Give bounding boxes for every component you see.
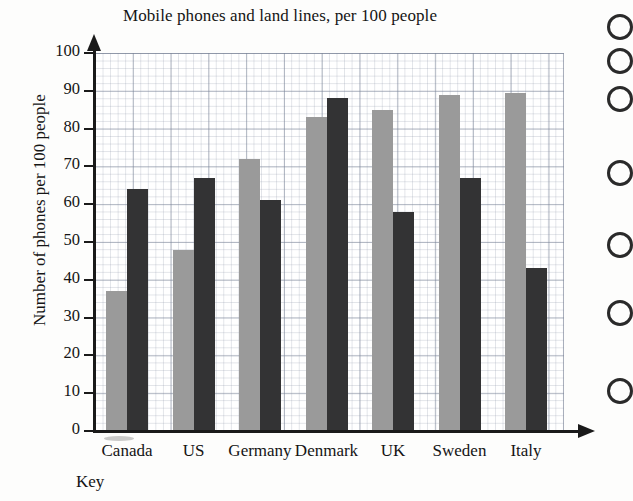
bar-denmark-mobile [306,117,327,431]
bar-italy-mobile [505,93,526,431]
y-tick [84,90,94,92]
bar-sweden-landline [460,178,481,431]
y-tick [84,165,94,167]
hole-punch-mark [607,300,633,326]
y-tick-label: 10 [28,381,80,401]
y-tick [84,52,94,54]
x-label-italy: Italy [486,441,566,461]
chart-title: Mobile phones and land lines, per 100 pe… [0,6,560,26]
bar-uk-landline [393,212,414,431]
y-tick [84,392,94,394]
y-tick [84,317,94,319]
y-tick-label: 30 [28,306,80,326]
y-tick [84,241,94,243]
hole-punch-mark [607,14,633,40]
bar-italy-landline [526,268,547,431]
bar-us-landline [194,178,215,431]
y-tick-label: 20 [28,343,80,363]
y-tick [84,203,94,205]
bar-canada-mobile [106,291,127,431]
y-tick-label: 40 [28,268,80,288]
y-tick-label: 90 [28,79,80,99]
hole-punch-mark [607,378,633,404]
key-label: Key [76,472,104,492]
y-tick-label: 70 [28,154,80,174]
hole-punch-mark [607,160,633,186]
bar-germany-mobile [239,159,260,431]
scan-smudge [104,436,134,441]
hole-punch-mark [607,48,633,74]
y-tick-label: 100 [28,41,80,61]
y-tick [84,354,94,356]
bar-sweden-mobile [439,95,460,431]
y-tick-label: 0 [28,419,80,439]
bar-canada-landline [127,189,148,431]
bar-us-mobile [173,250,194,431]
hole-punch-mark [607,86,633,112]
x-axis-line [93,430,581,433]
y-tick [84,128,94,130]
y-tick [84,279,94,281]
x-axis-arrow-icon [578,424,595,438]
y-tick [84,430,94,432]
bar-germany-landline [260,200,281,431]
bars-layer [95,53,564,431]
y-tick-label: 80 [28,117,80,137]
bar-denmark-landline [327,98,348,431]
hole-punch-mark [607,232,633,258]
y-tick-label: 60 [28,192,80,212]
bar-uk-mobile [372,110,393,431]
y-axis-arrow-icon [87,34,101,51]
y-tick-label: 50 [28,230,80,250]
